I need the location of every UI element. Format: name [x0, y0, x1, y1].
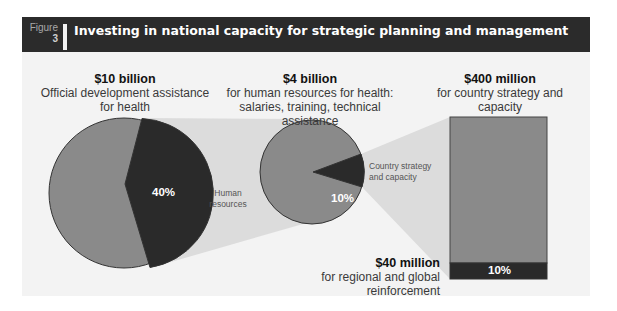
caption-hrh: $4 billion for human resources for healt…	[215, 72, 405, 128]
label-country-strategy-line1: Country strategy	[369, 161, 431, 172]
label-human-resources-line2: resources	[208, 199, 248, 210]
caption-odah-amount: $10 billion	[40, 72, 210, 86]
caption-regional-amount: $40 million	[258, 256, 440, 270]
label-country-strategy-line2: and capacity	[369, 172, 431, 183]
caption-country: $400 million for country strategy and ca…	[420, 72, 580, 114]
caption-odah: $10 billion Official development assista…	[40, 72, 210, 114]
pie-odah-percent: 40%	[152, 186, 175, 198]
caption-country-amount: $400 million	[420, 72, 580, 86]
caption-odah-line2: for health	[40, 100, 210, 114]
caption-hrh-line1: for human resources for health:	[215, 86, 405, 100]
caption-regional: $40 million for regional and global rein…	[258, 256, 440, 298]
pie-hrh-percent: 10%	[331, 192, 354, 204]
caption-country-line1: for country strategy and capacity	[420, 86, 580, 114]
bar-percent: 10%	[488, 264, 511, 276]
bar-country	[450, 117, 547, 279]
label-human-resources-line1: Human	[208, 188, 248, 199]
pie-odah	[49, 118, 213, 268]
label-human-resources: Human resources	[208, 188, 248, 210]
caption-odah-line1: Official development assistance	[40, 86, 210, 100]
label-country-strategy: Country strategy and capacity	[369, 161, 431, 183]
projection-wedge-2	[361, 117, 450, 279]
caption-hrh-amount: $4 billion	[215, 72, 405, 86]
pie-hrh	[260, 120, 364, 224]
caption-hrh-line2: salaries, training, technical assistance	[215, 100, 405, 128]
caption-regional-line1: for regional and global reinforcement	[258, 270, 440, 298]
